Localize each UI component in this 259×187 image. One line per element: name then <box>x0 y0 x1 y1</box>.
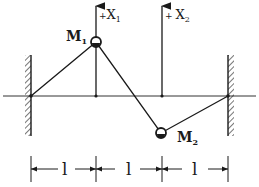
string <box>29 42 230 133</box>
x2-label: +X2 <box>165 7 190 24</box>
dimension-label-3: l <box>192 159 197 179</box>
x1-label: +X1 <box>99 7 121 24</box>
diagram-canvas: +X1 +X2 M1 M2 <box>0 0 259 187</box>
two-mass-string-diagram: +X1 +X2 M1 M2 <box>0 0 259 187</box>
dimension-label-1: l <box>62 159 67 179</box>
mass-m1 <box>91 37 101 47</box>
mass-m2 <box>156 128 166 138</box>
x2-axis <box>160 6 163 98</box>
m2-label: M2 <box>177 129 198 147</box>
dimension-label-2: l <box>126 159 131 179</box>
x1-axis <box>94 6 97 98</box>
m1-label: M1 <box>66 28 87 46</box>
